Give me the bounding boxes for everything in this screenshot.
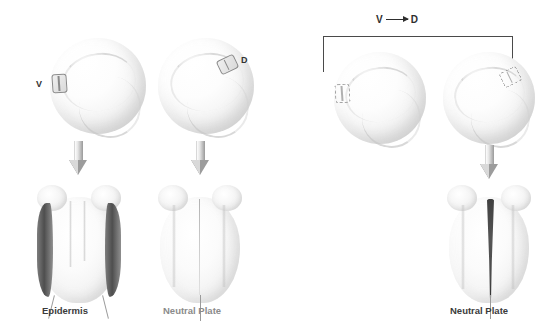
neurula-flank-right xyxy=(511,205,515,289)
graft-label-d: D xyxy=(241,55,248,65)
figure-canvas: V Epidermis D xyxy=(0,0,549,335)
down-arrow-icon-3 xyxy=(480,145,498,179)
neurula-neutral-plate-dark xyxy=(441,183,537,303)
blastula-sphere-host xyxy=(443,52,535,144)
transfer-label: V D xyxy=(376,14,418,25)
neurula-midline xyxy=(69,201,72,267)
down-arrow-icon-2 xyxy=(191,141,209,175)
caption-neutral-plate-transplant: Neutral Plate xyxy=(450,305,508,316)
transfer-from-label: V xyxy=(376,14,383,25)
caption-epidermis: Epidermis xyxy=(42,305,88,316)
neurula-flank-right xyxy=(222,205,226,287)
neural-fold-right xyxy=(501,185,531,211)
transfer-to-label: D xyxy=(411,14,418,25)
blastula-sphere xyxy=(158,38,254,134)
arrow-shaft xyxy=(485,145,494,165)
graft-label-v: V xyxy=(36,79,42,89)
neurula-flank-left xyxy=(461,205,465,289)
epidermis-band-right xyxy=(105,203,121,297)
leader-line-right xyxy=(102,295,109,319)
graft-site-donor-dashed xyxy=(334,83,350,103)
down-arrow-icon-1 xyxy=(69,141,87,175)
neurula-midline xyxy=(199,199,200,295)
neurula-neutral-plate-pale xyxy=(152,183,248,303)
arrow-shaft xyxy=(74,141,83,161)
epidermis-band-left xyxy=(37,203,53,297)
right-arrow-icon xyxy=(386,19,408,21)
neural-fold-right xyxy=(212,185,242,211)
bracket-horizontal xyxy=(323,36,512,37)
neurula-flank-left xyxy=(172,205,176,287)
graft-patch-ventral xyxy=(51,73,67,93)
neurula-epidermis xyxy=(31,183,127,303)
neurula-midline-2 xyxy=(83,201,86,261)
bracket-left-leg xyxy=(323,36,324,72)
arrow-shaft xyxy=(196,141,205,161)
caption-neutral-plate-control: Neutral Plate xyxy=(163,305,221,316)
